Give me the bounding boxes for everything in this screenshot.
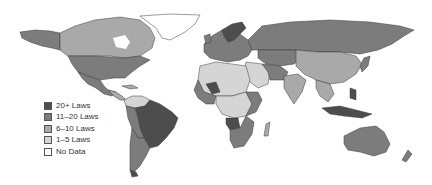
region-north-africa	[198, 62, 250, 96]
region-russia	[248, 20, 414, 54]
region-new-zealand	[402, 150, 412, 162]
region-central-asia	[258, 50, 302, 66]
legend-label: No Data	[56, 147, 85, 157]
legend-item-no-data: No Data	[44, 146, 99, 157]
region-china	[296, 50, 362, 84]
legend-item-1-5: 1–5 Laws	[44, 135, 99, 146]
legend-label: 6–10 Laws	[56, 124, 95, 134]
region-alaska	[20, 30, 60, 50]
region-caribbean	[122, 85, 138, 89]
legend-label: 1–5 Laws	[56, 135, 90, 145]
legend-swatch	[44, 148, 52, 156]
region-australia	[344, 126, 390, 156]
region-usa	[68, 56, 150, 80]
legend-swatch	[44, 125, 52, 133]
legend-label: 11–20 Laws	[56, 112, 99, 122]
legend-swatch	[44, 136, 52, 144]
region-madagascar	[264, 122, 270, 136]
legend: 20+ Laws 11–20 Laws 6–10 Laws 1–5 Laws N…	[44, 100, 99, 158]
region-india	[284, 74, 306, 104]
legend-swatch	[44, 113, 52, 121]
legend-label: 20+ Laws	[56, 101, 90, 111]
region-japan	[360, 56, 370, 72]
legend-item-20-plus: 20+ Laws	[44, 100, 99, 111]
region-central-africa	[216, 92, 252, 118]
region-indonesia	[322, 106, 372, 118]
region-canada	[60, 17, 155, 58]
region-philippines	[350, 88, 356, 100]
legend-swatch	[44, 102, 52, 110]
region-uk	[204, 34, 211, 44]
legend-item-6-10: 6–10 Laws	[44, 123, 99, 134]
legend-item-11-20: 11–20 Laws	[44, 112, 99, 123]
